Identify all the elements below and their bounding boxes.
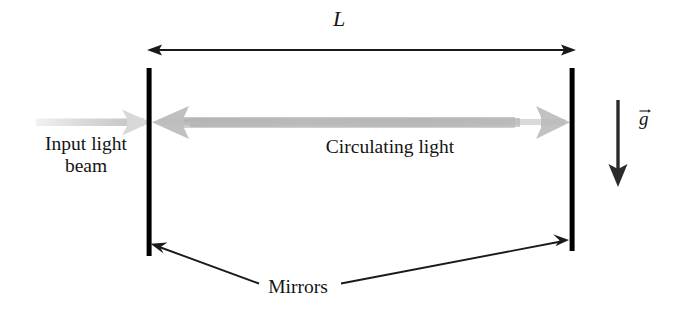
mirrors-leader-right-arrowhead-icon [553, 234, 569, 246]
circulating-light-label: Circulating light [326, 136, 454, 158]
optical-cavity-diagram: L Input lightbeam Circulating light Mirr… [0, 0, 675, 315]
mirrors-leader-right [341, 242, 561, 284]
cavity-length-label: L [333, 7, 345, 32]
gravity-vector-label: g [639, 108, 649, 129]
gravity-arrow [609, 100, 628, 187]
mirrors-leader-lines [151, 234, 570, 283]
input-beam-label-line1: Input light [45, 133, 127, 154]
left-mirror [147, 68, 152, 256]
mirrors-leader-left [158, 247, 259, 284]
input-beam-label-line2: beam [65, 155, 107, 176]
input-light-beam [36, 110, 151, 136]
right-mirror [570, 68, 575, 251]
cavity-length-dimension [147, 45, 576, 56]
input-light-beam-label: Input lightbeam [45, 133, 127, 177]
gravity-symbol-wrapper: g [639, 108, 649, 129]
beam-haze [160, 119, 565, 125]
gravity-symbol-g: g [639, 108, 649, 129]
mirrors-label: Mirrors [268, 276, 328, 298]
